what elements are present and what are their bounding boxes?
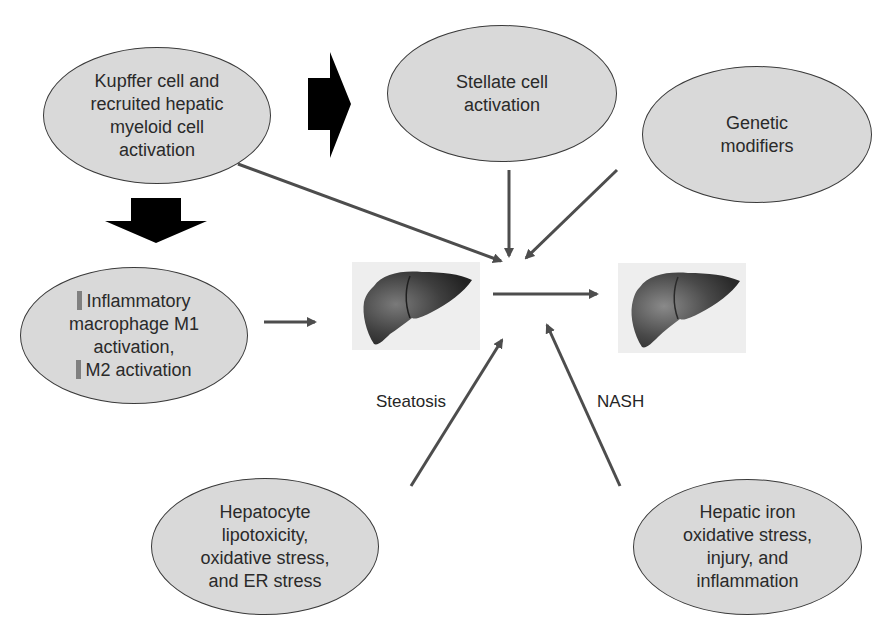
node-text: Stellate cell [456, 71, 548, 94]
node-hepatic-iron: Hepatic iron oxidative stress, injury, a… [633, 479, 862, 615]
block-arrow-right-icon [308, 52, 351, 158]
node-text: recruited hepatic [90, 93, 223, 116]
node-text: activation [119, 139, 195, 162]
label-nash: NASH [597, 392, 644, 412]
node-text: macrophage M1 [69, 313, 199, 336]
node-text: M2 activation [85, 360, 191, 380]
node-macrophage-activation: Inflammatory macrophage M1 activation, M… [20, 267, 248, 404]
block-arrow-down-icon [105, 198, 207, 243]
node-genetic-modifiers: Genetic modifiers [642, 66, 872, 203]
arrow-kupffer-to-center [238, 164, 501, 261]
arrow-genetic-to-center [526, 170, 617, 258]
node-text: modifiers [720, 135, 793, 158]
node-text: myeloid cell [110, 116, 204, 139]
liver-icon [618, 263, 746, 353]
node-text: Hepatic iron [699, 501, 795, 524]
node-text: Hepatocyte [219, 501, 310, 524]
arrow-hepatocyte-to-center [411, 340, 502, 486]
node-hepatocyte-lipotoxicity: Hepatocyte lipotoxicity, oxidative stres… [151, 478, 379, 615]
liver-steatosis-image [352, 262, 480, 350]
node-text: Kupffer cell and [95, 70, 220, 93]
node-text: injury, and [707, 547, 789, 570]
node-text: and ER stress [208, 570, 321, 593]
node-text: activation [464, 94, 540, 117]
node-kupffer-cell-activation: Kupffer cell and recruited hepatic myelo… [43, 47, 271, 184]
down-arrow-icon [76, 360, 81, 379]
liver-icon [352, 262, 480, 350]
node-text: oxidative stress, [683, 524, 812, 547]
diagram-canvas: Kupffer cell and recruited hepatic myelo… [0, 0, 890, 629]
up-arrow-icon [77, 291, 82, 310]
node-text: Genetic [726, 112, 788, 135]
label-steatosis: Steatosis [376, 392, 446, 412]
liver-nash-image [618, 263, 746, 353]
node-text: oxidative stress, [200, 547, 329, 570]
node-text: inflammation [696, 570, 798, 593]
node-text: activation, [93, 336, 174, 359]
node-text: lipotoxicity, [222, 524, 309, 547]
node-stellate-cell-activation: Stellate cell activation [387, 25, 617, 162]
node-text: Inflammatory [86, 291, 190, 311]
